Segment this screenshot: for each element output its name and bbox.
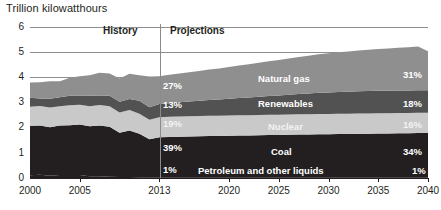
y-tick-4: 4 xyxy=(6,72,24,82)
x-tick-2040: 2040 xyxy=(417,185,439,196)
plot-area xyxy=(30,27,428,178)
x-tick-2025: 2025 xyxy=(268,185,290,196)
history-projection-divider xyxy=(160,24,161,179)
energy-generation-area-chart: Trillion kilowatthours 6 5 4 3 2 1 0 His… xyxy=(0,0,441,210)
x-tick-mark-2035 xyxy=(378,178,379,182)
series-label-coal: Coal xyxy=(271,146,292,157)
share-2013-natural-gas: 27% xyxy=(163,80,182,91)
series-label-natural-gas: Natural gas xyxy=(258,73,310,84)
share-2013-nuclear: 19% xyxy=(163,118,182,129)
y-tick-3: 3 xyxy=(6,97,24,107)
share-2040-coal: 34% xyxy=(403,146,422,157)
x-tick-mark-2020 xyxy=(229,178,230,182)
series-label-petroleum: Petroleum and other liquids xyxy=(198,165,324,176)
y-tick-0: 0 xyxy=(6,173,24,183)
x-tick-2035: 2035 xyxy=(367,185,389,196)
share-2040-petroleum: 1% xyxy=(412,165,426,176)
x-tick-2020: 2020 xyxy=(218,185,240,196)
x-tick-2000: 2000 xyxy=(19,185,41,196)
share-2013-renewables: 13% xyxy=(163,99,182,110)
x-tick-2005: 2005 xyxy=(69,185,91,196)
share-2013-petroleum: 1% xyxy=(163,164,177,175)
share-2040-renewables: 18% xyxy=(403,98,422,109)
y-tick-1: 1 xyxy=(6,148,24,158)
share-2013-coal: 39% xyxy=(163,142,182,153)
x-tick-mark-2025 xyxy=(279,178,280,182)
series-label-nuclear: Nuclear xyxy=(268,121,303,132)
y-tick-5: 5 xyxy=(6,47,24,57)
x-tick-2013: 2013 xyxy=(148,185,170,196)
y-tick-2: 2 xyxy=(6,122,24,132)
stacked-area-series xyxy=(30,27,428,178)
x-tick-mark-2030 xyxy=(329,178,330,182)
y-tick-6: 6 xyxy=(6,22,24,32)
x-tick-2030: 2030 xyxy=(317,185,339,196)
share-2040-natural-gas: 31% xyxy=(403,69,422,80)
x-tick-mark-2040 xyxy=(428,178,429,182)
projections-label: Projections xyxy=(170,25,224,36)
history-label: History xyxy=(103,25,137,36)
x-tick-mark-2005 xyxy=(80,178,81,182)
share-2040-nuclear: 16% xyxy=(403,119,422,130)
series-label-renewables: Renewables xyxy=(258,98,313,109)
chart-title: Trillion kilowatthours xyxy=(6,2,107,14)
x-tick-mark-2013 xyxy=(159,178,160,182)
